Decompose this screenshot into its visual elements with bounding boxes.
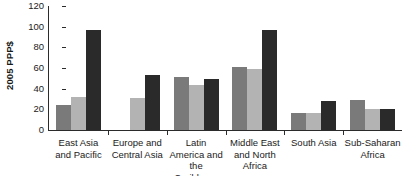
bar (189, 85, 204, 130)
y-tick-label: 40 (33, 83, 44, 95)
bar (71, 97, 86, 130)
x-tick-mark (226, 131, 227, 135)
bar (56, 105, 71, 130)
bar (145, 75, 160, 130)
bar-group (343, 6, 402, 130)
y-axis-title-text: 2005 PPP$ (4, 41, 15, 90)
bar (321, 101, 336, 130)
x-axis-label: East Asia and Pacific (49, 137, 108, 176)
bar (291, 113, 306, 130)
y-axis: 020406080100120 (18, 0, 44, 131)
bar (350, 100, 365, 130)
plot-area (49, 6, 402, 130)
bar (204, 79, 219, 130)
bar-group (49, 6, 108, 130)
y-tick-label: 120 (28, 0, 44, 12)
bar-group (167, 6, 226, 130)
bar (365, 109, 380, 130)
bar (306, 113, 321, 130)
bar (130, 98, 145, 130)
bar (247, 69, 262, 130)
x-axis-label: South Asia (284, 137, 343, 176)
x-tick-mark (167, 131, 168, 135)
y-tick-label: 0 (39, 124, 44, 136)
bar-chart: 2005 PPP$ 020406080100120 East Asia and … (0, 0, 404, 176)
x-axis-labels: East Asia and PacificEurope and Central … (49, 137, 402, 176)
x-axis-label: Europe and Central Asia (108, 137, 167, 176)
y-tick-label: 80 (33, 41, 44, 53)
bar (262, 30, 277, 130)
y-tick-label: 100 (28, 21, 44, 33)
bar (174, 77, 189, 130)
bar-group (284, 6, 343, 130)
x-tick-mark (343, 131, 344, 135)
x-tick-mark (284, 131, 285, 135)
bar (380, 109, 395, 130)
x-axis-label: Sub-Saharan Africa (343, 137, 402, 176)
y-tick-label: 60 (33, 62, 44, 74)
bar (232, 67, 247, 130)
x-axis-label: Latin America and the Caribbean (167, 137, 226, 176)
bar-group (108, 6, 167, 130)
y-tick-label: 20 (33, 103, 44, 115)
bar-group (225, 6, 284, 130)
x-tick-mark (108, 131, 109, 135)
bar (86, 30, 101, 130)
x-axis-label: Middle East and North Africa (225, 137, 284, 176)
y-axis-title: 2005 PPP$ (0, 0, 18, 131)
